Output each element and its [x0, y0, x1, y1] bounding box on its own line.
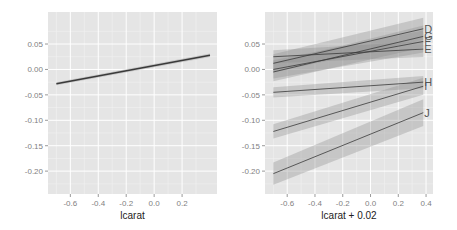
panel-right: -0.6-0.4-0.20.00.20.40.050.00-0.05-0.10-…: [242, 12, 433, 221]
y-tick-label: -0.10: [242, 116, 261, 125]
y-tick-label: -0.05: [242, 91, 261, 100]
y-tick-label: 0.05: [244, 40, 260, 49]
y-tick-label: -0.15: [25, 142, 44, 151]
y-tick-label: 0.05: [27, 40, 43, 49]
x-axis-title: lcarat + 0.02: [321, 210, 377, 221]
y-tick-label: 0.00: [27, 65, 43, 74]
x-tick-label: -0.2: [119, 199, 133, 208]
x-tick-label: 0.2: [177, 199, 189, 208]
x-tick-label: -0.4: [91, 199, 105, 208]
y-tick-label: -0.20: [242, 167, 261, 176]
x-tick-label: -0.6: [280, 199, 294, 208]
y-tick-label: -0.10: [25, 116, 44, 125]
series-label-E: E: [424, 43, 431, 55]
y-tick-label: 0.00: [244, 65, 260, 74]
x-tick-label: 0.4: [420, 199, 432, 208]
x-tick-label: 0.2: [393, 199, 405, 208]
x-tick-label: 0.0: [365, 199, 377, 208]
x-tick-label: -0.2: [336, 199, 350, 208]
series-label-J: J: [424, 107, 430, 119]
panel-left: -0.6-0.4-0.20.00.20.050.00-0.05-0.10-0.1…: [25, 12, 217, 221]
x-tick-label: -0.6: [63, 199, 77, 208]
x-tick-label: -0.4: [308, 199, 322, 208]
x-tick-label: 0.0: [149, 199, 161, 208]
series-label-I: I: [424, 80, 427, 92]
plot-background: [48, 12, 217, 194]
x-axis-title: lcarat: [120, 210, 145, 221]
y-tick-label: -0.20: [25, 167, 44, 176]
chart-figure: -0.6-0.4-0.20.00.20.050.00-0.05-0.10-0.1…: [0, 0, 457, 230]
y-tick-label: -0.15: [242, 142, 261, 151]
y-tick-label: -0.05: [25, 91, 44, 100]
